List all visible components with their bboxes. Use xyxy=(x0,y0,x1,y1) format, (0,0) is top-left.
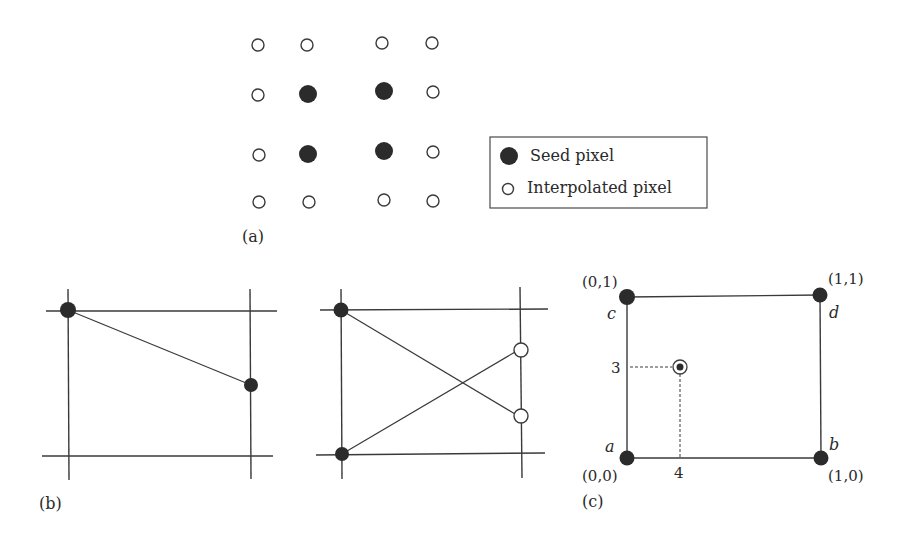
corner-a-dot xyxy=(620,451,635,466)
legend: Seed pixel Interpolated pixel xyxy=(490,137,707,208)
x-tick-label: 4 xyxy=(674,464,684,482)
target-point xyxy=(677,364,684,371)
y-tick-label: 3 xyxy=(611,359,621,377)
legend-interpolated-label: Interpolated pixel xyxy=(527,178,672,197)
corner-d-coord: (1,1) xyxy=(828,270,864,288)
interpolated-pixel xyxy=(427,146,439,158)
interpolated-pixel xyxy=(426,37,438,49)
seed-pixel xyxy=(335,447,349,461)
seed-pixel xyxy=(299,85,317,103)
seed-pixel xyxy=(299,145,317,163)
grid-line xyxy=(316,453,545,455)
corner-c-coord: (0,1) xyxy=(582,273,618,291)
panel-b-label: (b) xyxy=(39,494,62,513)
seed-pixel xyxy=(375,82,393,100)
grid-line xyxy=(520,287,522,478)
figure-canvas: (a) Seed pixel Interpolated pixel (b) xyxy=(0,0,910,533)
corner-c-dot xyxy=(619,289,635,305)
square-edge-top xyxy=(627,295,820,297)
grid-line xyxy=(320,309,548,310)
corner-b-coord: (1,0) xyxy=(828,467,864,485)
seed-pixel xyxy=(244,378,258,392)
interpolated-pixel xyxy=(253,149,265,161)
square-edge-right xyxy=(820,295,821,458)
legend-seed-icon xyxy=(500,147,518,165)
seed-pixel xyxy=(375,142,393,160)
interpolated-pixel xyxy=(378,194,390,206)
corner-d-name: d xyxy=(829,303,839,322)
corner-d-dot xyxy=(813,288,828,303)
seed-pixel xyxy=(334,303,349,318)
panel-b-left-diagram xyxy=(42,289,277,480)
interpolated-pixel xyxy=(301,39,313,51)
panel-b-right-diagram xyxy=(316,287,548,479)
connecting-line xyxy=(342,352,515,454)
seed-pixel xyxy=(60,302,76,318)
legend-seed-label: Seed pixel xyxy=(530,146,614,165)
interpolated-pixel xyxy=(252,39,264,51)
panel-c-label: (c) xyxy=(582,492,603,511)
interpolated-pixel xyxy=(253,196,265,208)
panel-c-diagram xyxy=(619,288,829,466)
panel-a-label: (a) xyxy=(242,227,264,246)
corner-b-dot xyxy=(814,451,829,466)
interpolated-pixel xyxy=(514,409,528,423)
connecting-line xyxy=(68,310,251,385)
connecting-line xyxy=(341,310,515,414)
interpolated-pixel xyxy=(303,196,315,208)
corner-a-name: a xyxy=(605,437,615,456)
panel-a-grid xyxy=(252,37,439,208)
corner-b-name: b xyxy=(829,435,839,454)
corner-a-coord: (0,0) xyxy=(582,467,618,485)
legend-interpolated-icon xyxy=(503,184,514,195)
interpolated-pixel xyxy=(514,343,528,357)
interpolated-pixel xyxy=(427,195,439,207)
interpolated-pixel xyxy=(376,37,388,49)
interpolated-pixel xyxy=(427,86,439,98)
interpolated-pixel xyxy=(252,89,264,101)
corner-c-name: c xyxy=(607,304,616,323)
